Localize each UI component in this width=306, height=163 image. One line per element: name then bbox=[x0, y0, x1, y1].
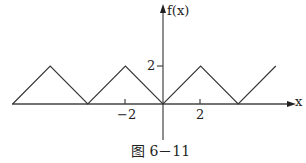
y-axis-label: f(x) bbox=[167, 4, 189, 17]
series-line bbox=[13, 66, 276, 104]
y-tick-label-2: 2 bbox=[147, 59, 155, 72]
y-axis-arrow-icon bbox=[160, 4, 166, 13]
x-axis-label: x bbox=[295, 95, 302, 108]
figure-caption: 图 6－11 bbox=[131, 144, 190, 158]
chart-canvas bbox=[0, 0, 306, 163]
x-tick-label-neg2: −2 bbox=[117, 108, 136, 121]
x-tick-label-2: 2 bbox=[196, 108, 204, 121]
